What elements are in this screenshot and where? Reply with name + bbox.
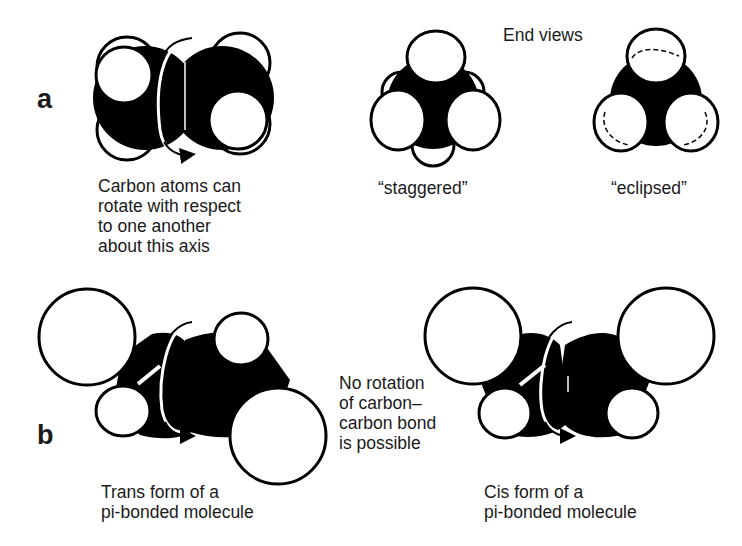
hydrogen-atom <box>407 31 465 83</box>
hydrogen-atom <box>618 288 714 384</box>
hydrogen-atom <box>209 91 267 149</box>
staggered-end-view <box>371 31 500 166</box>
ethane-side-view <box>93 33 274 160</box>
cis-molecule <box>425 288 714 438</box>
hydrogen-atom <box>627 29 685 83</box>
hydrogen-atom <box>446 90 500 150</box>
hydrogen-atom <box>96 47 152 103</box>
hydrogen-atom <box>606 388 658 438</box>
hydrogen-atom <box>479 388 531 438</box>
hydrogen-atom <box>425 288 521 384</box>
hydrogen-atom <box>371 90 425 150</box>
hydrogen-atom <box>664 93 718 151</box>
hydrogen-atom <box>594 93 648 151</box>
hydrogen-atom <box>39 289 135 385</box>
hydrogen-atom <box>96 386 150 436</box>
hydrogen-atom <box>214 313 268 365</box>
hydrogen-atom <box>230 388 326 484</box>
trans-molecule <box>39 289 326 484</box>
eclipsed-end-view <box>594 29 718 151</box>
